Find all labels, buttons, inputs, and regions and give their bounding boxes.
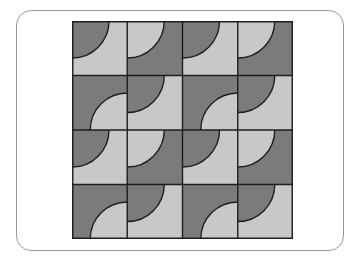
quilt-tile	[127, 130, 182, 185]
quilt-tile	[72, 185, 127, 240]
quilt-tile	[238, 76, 293, 131]
quilt-tile	[72, 21, 127, 76]
quilt-tile	[238, 185, 293, 240]
quilt-tile-grid	[72, 21, 293, 239]
quilt-tile	[238, 130, 293, 185]
quilt-tile	[238, 21, 293, 76]
quilt-tile	[72, 76, 127, 131]
quilt-tile	[183, 21, 238, 76]
quilt-tile	[72, 130, 127, 185]
quilt-tile	[183, 76, 238, 131]
quilt-tile	[127, 76, 182, 131]
quilt-tile	[127, 21, 182, 76]
quilt-tile	[183, 185, 238, 240]
quilt-tile	[183, 130, 238, 185]
quilt-tile	[127, 185, 182, 240]
